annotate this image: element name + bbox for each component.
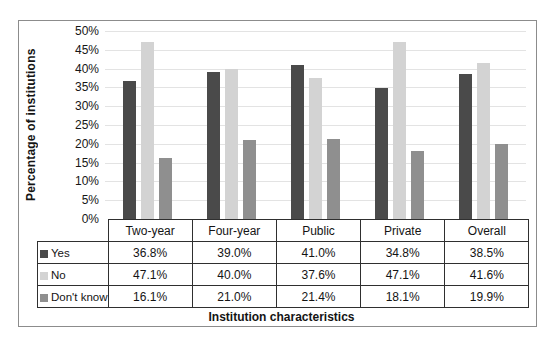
bar-yes-four-year [207, 72, 220, 219]
table-row-yes: Yes36.8%39.0%41.0%34.8%38.5% [38, 242, 529, 264]
column-header-private: Private [361, 220, 445, 242]
value-cell-yes-public: 41.0% [276, 242, 360, 264]
table-row-no: No47.1%40.0%37.6%47.1%41.6% [38, 264, 529, 286]
legend-label: Don't know [51, 291, 108, 303]
bar-yes-two-year [123, 81, 136, 219]
ytick-label-5: 5% [53, 192, 99, 208]
data-table: Two-yearFour-yearPublicPrivateOverallYes… [37, 219, 529, 308]
ytick-label-15: 15% [53, 155, 99, 171]
legend-swatch-don-t-know [40, 294, 48, 302]
ytick-label-25: 25% [53, 117, 99, 133]
figure-frame: Percentage of institutions 0%5%10%15%20%… [18, 20, 537, 327]
gridline-50 [105, 31, 526, 32]
value-cell-yes-private: 34.8% [361, 242, 445, 264]
legend-label: Yes [51, 247, 70, 259]
ytick-label-10: 10% [53, 173, 99, 189]
bar-don-t-know-private [411, 151, 424, 219]
bar-no-four-year [225, 69, 238, 219]
legend-label: No [51, 269, 66, 281]
ytick-label-45: 45% [53, 42, 99, 58]
gridline-40 [105, 69, 526, 70]
bar-yes-public [291, 65, 304, 219]
table-corner-cell [38, 220, 109, 242]
ytick-label-30: 30% [53, 98, 99, 114]
ytick-label-35: 35% [53, 79, 99, 95]
column-header-four-year: Four-year [192, 220, 276, 242]
value-cell-don-t-know-four-year: 21.0% [192, 286, 276, 308]
x-axis-title: Institution characteristics [37, 310, 526, 324]
value-cell-don-t-know-private: 18.1% [361, 286, 445, 308]
bar-don-t-know-overall [495, 144, 508, 219]
column-header-two-year: Two-year [108, 220, 192, 242]
bar-no-overall [477, 63, 490, 219]
legend-cell-yes: Yes [38, 242, 109, 264]
column-header-overall: Overall [445, 220, 529, 242]
value-cell-no-private: 47.1% [361, 264, 445, 286]
value-cell-don-t-know-two-year: 16.1% [108, 286, 192, 308]
legend-swatch-yes [40, 250, 48, 258]
column-header-public: Public [276, 220, 360, 242]
table-row-don-t-know: Don't know16.1%21.0%21.4%18.1%19.9% [38, 286, 529, 308]
legend-cell-don-t-know: Don't know [38, 286, 109, 308]
bar-yes-overall [459, 74, 472, 219]
ytick-label-40: 40% [53, 61, 99, 77]
legend-swatch-no [40, 272, 48, 280]
y-axis-title: Percentage of institutions [22, 31, 40, 219]
bar-no-private [393, 42, 406, 219]
legend-cell-no: No [38, 264, 109, 286]
value-cell-no-public: 37.6% [276, 264, 360, 286]
bar-don-t-know-two-year [159, 158, 172, 219]
bar-don-t-know-public [327, 139, 340, 219]
value-cell-yes-two-year: 36.8% [108, 242, 192, 264]
value-cell-no-overall: 41.6% [445, 264, 529, 286]
bar-no-two-year [141, 42, 154, 219]
value-cell-yes-four-year: 39.0% [192, 242, 276, 264]
ytick-label-20: 20% [53, 136, 99, 152]
bar-yes-private [375, 88, 388, 219]
value-cell-don-t-know-overall: 19.9% [445, 286, 529, 308]
table-header-row: Two-yearFour-yearPublicPrivateOverall [38, 220, 529, 242]
gridline-45 [105, 50, 526, 51]
value-cell-no-two-year: 47.1% [108, 264, 192, 286]
bar-don-t-know-four-year [243, 140, 256, 219]
value-cell-don-t-know-public: 21.4% [276, 286, 360, 308]
value-cell-no-four-year: 40.0% [192, 264, 276, 286]
ytick-label-50: 50% [53, 23, 99, 39]
value-cell-yes-overall: 38.5% [445, 242, 529, 264]
bar-no-public [309, 78, 322, 219]
